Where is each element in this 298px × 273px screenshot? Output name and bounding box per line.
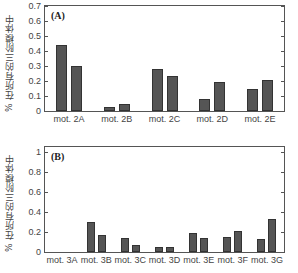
x-category-label: mot. 3B xyxy=(81,255,112,265)
y-tick-mark xyxy=(281,192,284,193)
y-tick-label: 0.2 xyxy=(28,227,45,237)
x-category-label: mot. 2A xyxy=(53,114,84,124)
bar xyxy=(121,238,129,252)
panel-b: % 在所有的三阶模体中 (B) 00.20.40.60.81mot. 3Amot… xyxy=(0,140,298,273)
bar xyxy=(234,231,242,252)
y-tick-mark xyxy=(281,252,284,253)
bar xyxy=(189,233,197,252)
bar xyxy=(257,239,265,252)
bar xyxy=(87,222,95,252)
bar xyxy=(262,80,273,111)
bar xyxy=(155,247,163,252)
plot-area-a: (A) 00.10.20.30.40.50.60.7mot. 2Amot. 2B… xyxy=(44,5,285,112)
bar xyxy=(223,237,231,252)
y-tick-label: 0.4 xyxy=(28,46,45,56)
y-tick-mark xyxy=(281,81,284,82)
y-tick-mark xyxy=(45,81,48,82)
y-tick-mark xyxy=(281,51,284,52)
bar xyxy=(199,99,210,111)
y-tick-mark xyxy=(45,51,48,52)
y-axis-label: % 在所有的三阶模体中 xyxy=(2,148,14,258)
bar xyxy=(167,76,178,111)
y-tick-mark xyxy=(281,96,284,97)
y-tick-label: 0 xyxy=(36,106,45,116)
y-tick-label: 1 xyxy=(36,147,45,157)
y-tick-mark xyxy=(45,36,48,37)
bar xyxy=(119,104,130,111)
panel-a: % 在所有的三阶模体中 (A) 00.10.20.30.40.50.60.7mo… xyxy=(0,0,298,135)
y-tick-label: 0.1 xyxy=(28,91,45,101)
y-tick-mark xyxy=(281,152,284,153)
x-category-label: mot. 3C xyxy=(115,255,147,265)
bar xyxy=(247,89,258,112)
bar xyxy=(152,69,163,111)
y-tick-mark xyxy=(281,172,284,173)
bar xyxy=(166,247,174,252)
y-tick-mark xyxy=(281,212,284,213)
panel-label: (B) xyxy=(51,151,64,162)
y-tick-label: 0.6 xyxy=(28,16,45,26)
y-tick-mark xyxy=(281,232,284,233)
bar xyxy=(214,82,225,111)
y-tick-label: 0.2 xyxy=(28,76,45,86)
bar xyxy=(200,238,208,252)
y-tick-mark xyxy=(281,66,284,67)
y-tick-mark xyxy=(45,232,48,233)
x-category-label: mot. 3D xyxy=(149,255,181,265)
x-category-label: mot. 3A xyxy=(47,255,78,265)
x-category-label: mot. 2D xyxy=(197,114,229,124)
bar xyxy=(98,235,106,252)
y-tick-mark xyxy=(45,111,48,112)
y-tick-label: 0 xyxy=(36,247,45,257)
plot-area-b: (B) 00.20.40.60.81mot. 3Amot. 3Bmot. 3Cm… xyxy=(44,146,285,253)
y-axis-label: % 在所有的三阶模体中 xyxy=(2,8,14,118)
y-tick-mark xyxy=(281,36,284,37)
x-category-label: mot. 3G xyxy=(251,255,283,265)
x-category-label: mot. 3F xyxy=(218,255,249,265)
y-tick-mark xyxy=(281,21,284,22)
x-category-label: mot. 2E xyxy=(245,114,276,124)
bar xyxy=(132,245,140,252)
y-tick-label: 0.6 xyxy=(28,187,45,197)
panel-label: (A) xyxy=(51,10,65,21)
y-tick-mark xyxy=(45,192,48,193)
y-tick-label: 0.8 xyxy=(28,167,45,177)
bar xyxy=(104,107,115,112)
y-tick-mark xyxy=(45,66,48,67)
y-tick-label: 0.3 xyxy=(28,61,45,71)
y-tick-label: 0.5 xyxy=(28,31,45,41)
y-tick-label: 0.7 xyxy=(28,1,45,11)
y-tick-mark xyxy=(45,96,48,97)
x-category-label: mot. 2B xyxy=(101,114,132,124)
y-tick-label: 0.4 xyxy=(28,207,45,217)
bar xyxy=(56,45,67,111)
x-category-label: mot. 3E xyxy=(183,255,214,265)
y-tick-mark xyxy=(45,172,48,173)
y-tick-mark xyxy=(45,212,48,213)
x-category-label: mot. 2C xyxy=(149,114,181,124)
bar xyxy=(71,66,82,111)
bar xyxy=(268,219,276,252)
y-tick-mark xyxy=(45,21,48,22)
y-tick-mark xyxy=(281,111,284,112)
y-tick-mark xyxy=(45,152,48,153)
y-tick-mark xyxy=(281,6,284,7)
y-tick-mark xyxy=(45,6,48,7)
y-tick-mark xyxy=(45,252,48,253)
